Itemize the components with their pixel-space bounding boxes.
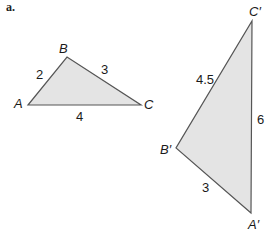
side-bc-prime-label: 4.5 <box>196 73 214 86</box>
triangles-figure <box>0 0 276 238</box>
vertex-c-prime-label: C′ <box>249 5 261 18</box>
side-ab-label: 2 <box>36 68 43 81</box>
triangle-abc <box>28 57 141 105</box>
vertex-b-label: B <box>59 42 68 55</box>
side-ac-label: 4 <box>76 110 83 123</box>
vertex-b-prime-label: B′ <box>160 143 171 156</box>
side-ab-prime-label: 3 <box>202 181 209 194</box>
vertex-c-label: C <box>144 98 153 111</box>
vertex-a-label: A <box>14 97 23 110</box>
side-bc-label: 3 <box>101 63 108 76</box>
triangle-abc-prime <box>176 21 252 213</box>
vertex-a-prime-label: A′ <box>248 218 259 231</box>
side-ac-prime-label: 6 <box>257 113 264 126</box>
